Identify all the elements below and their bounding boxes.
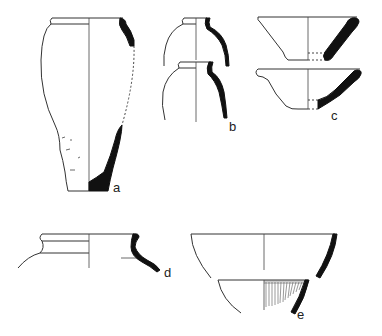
label-c: c [331, 108, 338, 123]
label-b: b [229, 119, 236, 134]
label-d: d [164, 265, 171, 280]
vessel-b-lower: b [162, 62, 236, 134]
vessel-a: a [41, 18, 134, 195]
pottery-figure: a b c d [0, 0, 382, 336]
vessel-c-upper [258, 17, 359, 60]
label-e: e [297, 307, 304, 322]
vessel-b-upper [164, 18, 229, 66]
vessel-e: e [191, 234, 337, 322]
label-a: a [113, 180, 121, 195]
vessel-d: d [18, 234, 171, 280]
vessel-c-lower: c [256, 69, 361, 123]
